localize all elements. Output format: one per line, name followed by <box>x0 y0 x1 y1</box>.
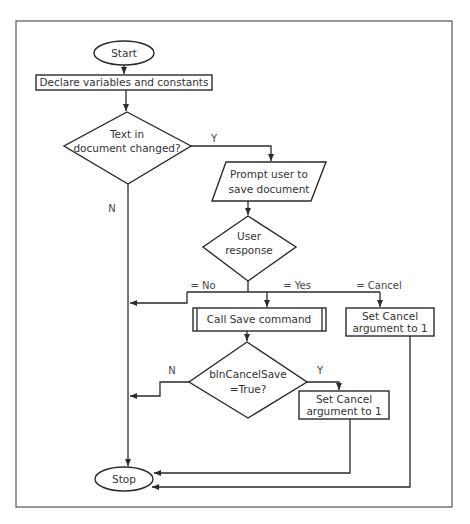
set-cancel-2-line1: Set Cancel <box>316 393 372 405</box>
call-save-label: Call Save command <box>207 313 311 325</box>
call-save-predefined-process: Call Save command <box>193 308 326 331</box>
cancel-save-line2: =True? <box>230 383 267 395</box>
text-changed-line2: document changed? <box>73 142 180 154</box>
flowchart: Start Declare variables and constants Te… <box>0 0 470 524</box>
edge-setcancel2-stop <box>154 419 350 473</box>
set-cancel-process-1: Set Cancel argument to 1 <box>346 308 434 336</box>
cancel-save-line1: blnCancelSave <box>209 368 287 380</box>
edge-label-cancel: = Cancel <box>356 280 401 291</box>
edge-label-n2: N <box>168 365 175 376</box>
edge-label-y1: Y <box>210 133 218 144</box>
edge-response-no <box>130 292 187 303</box>
user-response-line2: response <box>225 244 273 256</box>
edge-label-y2: Y <box>316 365 324 376</box>
prompt-io: Prompt user to save document <box>212 162 326 201</box>
prompt-line2: save document <box>229 183 310 195</box>
start-label: Start <box>111 47 137 59</box>
stop-label: Stop <box>112 473 136 485</box>
stop-terminator: Stop <box>95 467 153 491</box>
user-response-decision: User response <box>203 216 296 281</box>
set-cancel-process-2: Set Cancel argument to 1 <box>299 391 389 419</box>
set-cancel-1-line1: Set Cancel <box>362 310 418 322</box>
cancel-save-decision: blnCancelSave =True? <box>189 342 307 418</box>
edge-label-no: = No <box>190 280 215 291</box>
edge-cancelsave-no <box>130 382 189 396</box>
text-changed-line1: Text in <box>109 128 144 140</box>
set-cancel-2-line2: argument to 1 <box>306 405 381 417</box>
prompt-line1: Prompt user to <box>230 168 308 180</box>
set-cancel-1-line2: argument to 1 <box>352 322 427 334</box>
declare-process: Declare variables and constants <box>36 75 212 90</box>
edge-text-changed-yes <box>191 146 271 161</box>
user-response-line1: User <box>237 230 262 242</box>
edge-label-n1: N <box>108 203 115 214</box>
edge-label-yes: = Yes <box>283 280 311 291</box>
text-changed-decision: Text in document changed? <box>64 112 191 184</box>
declare-label: Declare variables and constants <box>40 76 209 88</box>
start-terminator: Start <box>94 41 154 65</box>
edge-cancelsave-yes <box>307 382 339 390</box>
